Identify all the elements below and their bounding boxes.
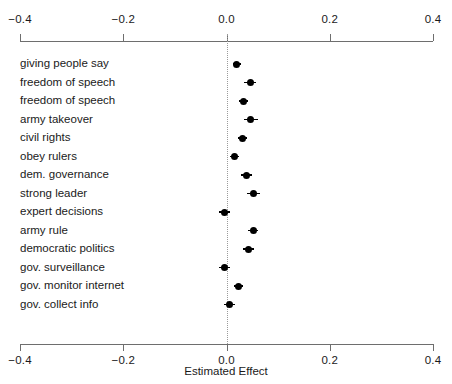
axis-tick-label: 0.2 — [300, 13, 360, 25]
row-label: strong leader — [20, 187, 87, 199]
data-point — [239, 135, 246, 142]
data-point — [233, 61, 240, 68]
data-point — [221, 264, 228, 271]
row-label: dem. governance — [20, 168, 109, 180]
axis-tick — [20, 34, 21, 41]
axis-tick — [123, 344, 124, 351]
row-label: freedom of speech — [20, 94, 115, 106]
coefficient-plot: −0.4−0.20.00.20.4 giving people sayfreed… — [0, 0, 452, 384]
data-point — [245, 246, 252, 253]
data-point — [247, 116, 254, 123]
axis-tick-label: 0.0 — [197, 13, 257, 25]
row-label: giving people say — [20, 57, 109, 69]
axis-tick-label: −0.2 — [93, 13, 153, 25]
data-point — [231, 153, 238, 160]
axis-tick — [330, 344, 331, 351]
axis-tick-label: −0.4 — [0, 13, 50, 25]
data-point — [250, 190, 257, 197]
data-point — [247, 79, 254, 86]
axis-tick — [123, 34, 124, 41]
row-label: gov. collect info — [20, 298, 98, 310]
row-label: democratic politics — [20, 242, 115, 254]
data-point — [240, 98, 247, 105]
row-label: freedom of speech — [20, 76, 115, 88]
row-label: army rule — [20, 224, 68, 236]
x-axis-title: Estimated Effect — [0, 365, 452, 377]
axis-tick — [433, 34, 434, 41]
row-label: civil rights — [20, 131, 70, 143]
axis-tick — [330, 34, 331, 41]
data-point — [235, 283, 242, 290]
axis-tick — [20, 344, 21, 351]
row-label: army takeover — [20, 113, 93, 125]
row-label: gov. monitor internet — [20, 279, 124, 291]
zero-reference-line — [227, 34, 229, 344]
axis-tick — [433, 344, 434, 351]
axis-tick-label: 0.4 — [403, 13, 452, 25]
data-point — [226, 301, 233, 308]
row-label: expert decisions — [20, 205, 103, 217]
row-label: obey rulers — [20, 150, 77, 162]
axis-tick — [227, 344, 228, 351]
data-point — [221, 209, 228, 216]
data-point — [243, 172, 250, 179]
data-point — [250, 227, 257, 234]
row-label: gov. surveillance — [20, 261, 105, 273]
